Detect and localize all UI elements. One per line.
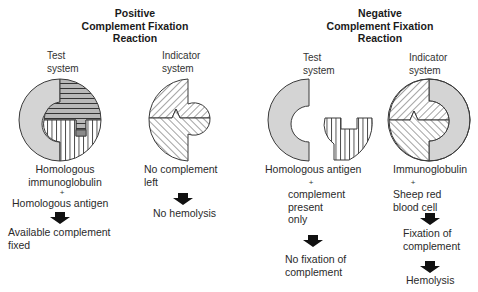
caption-line: complement <box>288 188 345 201</box>
caption-line: blood cell <box>393 201 441 214</box>
down-arrow-icon <box>303 235 323 247</box>
positive-indicator-caption: No complement left <box>144 163 218 188</box>
label-line: Indicator <box>162 50 200 63</box>
positive-title-line1: Positive <box>70 7 200 20</box>
negative-title-line1: Negative <box>315 7 445 20</box>
negative-reaction-title: Negative Complement Fixation Reaction <box>315 7 445 45</box>
result-line: No fixation of <box>285 253 346 266</box>
label-line: system <box>409 65 447 78</box>
positive-test-caption: Homologous immunoglobulin <box>20 163 110 188</box>
negative-indicator-caption-immunoglobulin: Immunoglobulin <box>393 163 467 176</box>
negative-indicator-system-label: Indicator system <box>409 52 447 77</box>
caption-line: left <box>144 176 218 189</box>
plus-sign: + <box>407 178 419 188</box>
down-arrow-icon <box>173 193 193 205</box>
label-line: system <box>162 63 200 76</box>
caption-line: Homologous <box>20 163 110 176</box>
negative-indicator-result-fixation: Fixation of complement <box>403 227 460 252</box>
caption-line: present <box>288 201 345 214</box>
caption-line: Sheep red <box>393 188 441 201</box>
negative-indicator-caption-srbc: Sheep red blood cell <box>393 188 441 213</box>
result-line: Fixation of <box>403 227 460 240</box>
label-line: Test <box>303 52 335 65</box>
positive-indicator-system-label: Indicator system <box>162 50 200 75</box>
label-line: Indicator <box>409 52 447 65</box>
negative-test-caption-complement: complement present only <box>288 188 345 226</box>
caption-line: only <box>288 213 345 226</box>
label-line: Test <box>47 50 79 63</box>
positive-reaction-title: Positive Complement Fixation Reaction <box>70 7 200 45</box>
positive-test-system-label: Test system <box>47 50 79 75</box>
negative-indicator-system-diagram <box>388 78 472 162</box>
negative-indicator-result-hemolysis: Hemolysis <box>406 274 454 287</box>
down-arrow-icon <box>50 212 70 224</box>
negative-test-result: No fixation of complement <box>285 253 346 278</box>
plus-sign: + <box>305 178 317 188</box>
positive-test-result: Available complement fixed <box>8 226 111 251</box>
result-line: fixed <box>8 239 111 252</box>
result-line: Available complement <box>8 226 111 239</box>
result-line: complement <box>403 240 460 253</box>
label-line: system <box>47 63 79 76</box>
positive-indicator-system-diagram <box>148 78 210 162</box>
positive-indicator-result: No hemolysis <box>153 207 216 220</box>
down-arrow-icon <box>420 261 440 273</box>
positive-title-line3: Reaction <box>70 32 200 45</box>
negative-title-line3: Reaction <box>315 32 445 45</box>
label-line: system <box>303 65 335 78</box>
positive-test-system-diagram <box>20 78 104 162</box>
caption-line: immunoglobulin <box>20 176 110 189</box>
positive-test-caption-antigen: Homologous antigen <box>12 197 108 210</box>
positive-title-line2: Complement Fixation <box>70 20 200 33</box>
negative-test-system-label: Test system <box>303 52 335 77</box>
negative-title-line2: Complement Fixation <box>315 20 445 33</box>
result-line: complement <box>285 266 346 279</box>
caption-line: No complement <box>144 163 218 176</box>
negative-test-system-diagram <box>268 78 378 162</box>
down-arrow-icon <box>420 213 440 225</box>
negative-test-caption-antigen: Homologous antigen <box>265 163 361 176</box>
